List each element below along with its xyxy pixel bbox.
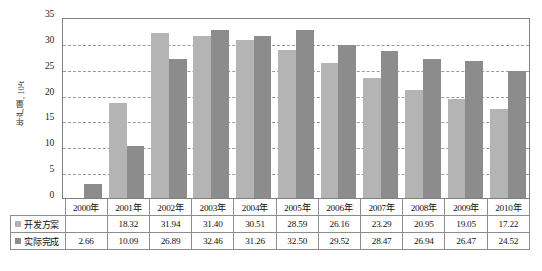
bar-actual <box>296 30 314 198</box>
y-tick-10: 10 <box>45 138 54 148</box>
table-cell-value: 19.05 <box>445 216 487 233</box>
table-cell-value: 26.94 <box>403 233 445 250</box>
bar-group <box>444 19 486 198</box>
bar-group <box>487 19 529 198</box>
bar-actual <box>338 45 356 198</box>
bar-group <box>63 19 105 198</box>
legend-label: 开发方案 <box>24 220 59 230</box>
table-cell-value: 30.51 <box>234 216 276 233</box>
table-cell-value: 32.46 <box>192 233 234 250</box>
bar-plan <box>193 36 211 198</box>
bar-actual <box>508 71 526 198</box>
bar-actual <box>465 61 483 198</box>
bar-group <box>402 19 444 198</box>
bar-actual <box>84 184 102 198</box>
table-cell-value: 23.29 <box>361 216 403 233</box>
table-year-header: 2001年 <box>107 199 149 216</box>
bar-actual <box>127 146 145 198</box>
bar-group <box>317 19 359 198</box>
table-cell-value: 26.16 <box>318 216 360 233</box>
legend-item-actual: 实际完成 <box>11 233 66 250</box>
bar-group <box>275 19 317 198</box>
table-year-header: 2009年 <box>445 199 487 216</box>
table-year-header: 2008年 <box>403 199 445 216</box>
table-cell-value: 20.95 <box>403 216 445 233</box>
y-tick-5: 5 <box>49 164 54 174</box>
table-cell-value: 26.89 <box>149 233 191 250</box>
y-axis-tick-labels: 05101520253035 <box>30 14 58 199</box>
bar-plan <box>490 109 508 198</box>
bar-plan <box>278 50 296 198</box>
table-cell-value: 28.59 <box>276 216 318 233</box>
table-cell-value: 2.66 <box>65 233 107 250</box>
table-row: 开发方案18.3231.9431.4030.5128.5926.1623.292… <box>11 216 530 233</box>
table-cell-value: 10.09 <box>107 233 149 250</box>
y-tick-15: 15 <box>45 112 54 122</box>
y-tick-20: 20 <box>45 87 54 97</box>
bar-plan <box>236 40 254 198</box>
bar-groups <box>63 19 529 198</box>
legend-label: 实际完成 <box>24 237 59 247</box>
bar-group <box>148 19 190 198</box>
table-year-header: 2004年 <box>234 199 276 216</box>
bar-actual <box>211 30 229 198</box>
bar-group <box>105 19 147 198</box>
table-cell-value: 18.32 <box>107 216 149 233</box>
y-tick-25: 25 <box>45 61 54 71</box>
table-cell-value: 26.47 <box>445 233 487 250</box>
bar-actual <box>423 59 441 198</box>
table-cell-value: 32.50 <box>276 233 318 250</box>
table-year-header: 2006年 <box>318 199 360 216</box>
table-corner-cell <box>11 199 66 216</box>
table-cell-value: 24.52 <box>487 233 529 250</box>
table-cell-value: 28.47 <box>361 233 403 250</box>
bar-plan <box>109 103 127 198</box>
legend-swatch-icon <box>15 221 21 227</box>
bar-plan <box>363 78 381 198</box>
table-cell-value <box>65 216 107 233</box>
bar-group <box>190 19 232 198</box>
table-cell-value: 31.94 <box>149 216 191 233</box>
data-table: 2000年2001年2002年2003年2004年2005年2006年2007年… <box>10 199 530 250</box>
table-cell-value: 31.40 <box>192 216 234 233</box>
y-tick-30: 30 <box>45 35 54 45</box>
table-cell-value: 31.26 <box>234 233 276 250</box>
table-year-header: 2010年 <box>487 199 529 216</box>
legend-item-plan: 开发方案 <box>11 216 66 233</box>
table-year-header: 2005年 <box>276 199 318 216</box>
table-cell-value: 17.22 <box>487 216 529 233</box>
table-year-header: 2003年 <box>192 199 234 216</box>
chart-figure: 年产量, 10⁴t 05101520253035 2000年2001年2002年… <box>0 0 542 271</box>
y-tick-35: 35 <box>45 9 54 19</box>
bar-group <box>360 19 402 198</box>
table-year-header: 2007年 <box>361 199 403 216</box>
table-cell-value: 29.52 <box>318 233 360 250</box>
bar-plan <box>321 63 339 198</box>
bar-plan <box>448 99 466 198</box>
legend-swatch-icon <box>15 238 21 244</box>
table-header-row: 2000年2001年2002年2003年2004年2005年2006年2007年… <box>11 199 530 216</box>
plot-area <box>62 18 530 199</box>
bar-group <box>232 19 274 198</box>
bar-plan <box>151 33 169 198</box>
table-row: 实际完成2.6610.0926.8932.4631.2632.5029.5228… <box>11 233 530 250</box>
y-axis-title: 年产量, 10⁴t <box>14 48 28 158</box>
bar-actual <box>254 36 272 198</box>
table-year-header: 2002年 <box>149 199 191 216</box>
bar-actual <box>381 51 399 198</box>
bar-plan <box>405 90 423 198</box>
bar-actual <box>169 59 187 198</box>
table-year-header: 2000年 <box>65 199 107 216</box>
